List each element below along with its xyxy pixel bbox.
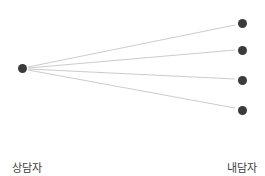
node-client-4[interactable] [238,106,247,115]
edge-counselor-to-client-2 [28,50,235,68]
label-counselor-text: 상담자 [12,162,43,176]
fan-diagram: 상담자 내담자 팀 [0,0,265,176]
edges-group [28,25,235,108]
label-client-team: 내담자 팀 [212,134,265,176]
label-client-team-line1: 내담자 [212,162,265,176]
edge-counselor-to-client-1 [28,25,235,67]
node-client-3[interactable] [238,76,247,85]
edge-counselor-to-client-3 [28,69,235,79]
label-counselor: 상담자 [12,134,43,176]
node-client-2[interactable] [238,46,247,55]
edge-counselor-to-client-4 [28,70,235,108]
node-client-1[interactable] [238,19,247,28]
node-counselor[interactable] [18,64,27,73]
